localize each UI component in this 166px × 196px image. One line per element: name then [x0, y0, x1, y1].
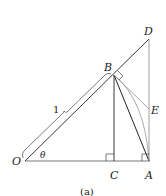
label-D: D	[143, 25, 153, 38]
label-E: E	[150, 104, 159, 117]
caption: (a)	[80, 186, 94, 196]
geometry-diagram: O C A B D E θ 1 (a)	[0, 0, 166, 196]
length-brace	[22, 73, 111, 158]
segment-BA	[114, 75, 149, 161]
label-O: O	[12, 155, 21, 168]
label-A: A	[144, 169, 153, 182]
right-angle-C	[106, 154, 114, 161]
label-B: B	[103, 61, 112, 74]
segment-OD	[25, 39, 149, 161]
label-C: C	[110, 169, 119, 182]
length-one: 1	[53, 104, 59, 115]
angle-theta: θ	[40, 150, 46, 160]
right-angle-B	[118, 71, 123, 80]
